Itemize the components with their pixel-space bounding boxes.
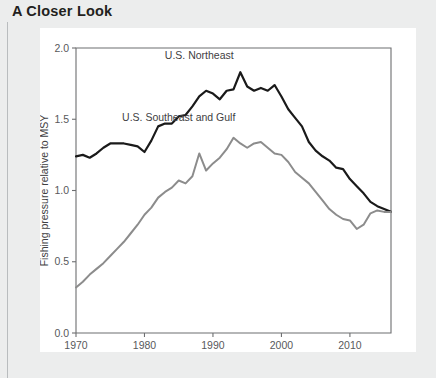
- chart-card: 0.00.51.01.52.019701980199020002010YearF…: [40, 28, 416, 352]
- page-root: A Closer Look 0.00.51.01.52.019701980199…: [0, 0, 436, 378]
- y-tick-label: 1.5: [54, 113, 69, 125]
- x-tick-label: 2000: [270, 339, 294, 351]
- x-tick-label: 1980: [133, 339, 157, 351]
- x-tick-label: 1990: [201, 339, 225, 351]
- y-tick-label: 2.0: [54, 42, 69, 54]
- page-title: A Closer Look: [12, 3, 112, 19]
- series-label: U.S. Southeast and Gulf: [122, 111, 235, 123]
- y-axis-title: Fishing pressure relative to MSY: [40, 115, 50, 267]
- y-tick-label: 0.5: [54, 255, 69, 267]
- plot-frame: [76, 48, 391, 333]
- y-tick-label: 1.0: [54, 184, 69, 196]
- left-edge-rule: [7, 22, 8, 378]
- x-tick-label: 2010: [338, 339, 362, 351]
- x-tick-label: 1970: [64, 339, 88, 351]
- y-tick-label: 0.0: [54, 327, 69, 339]
- series-line: [76, 138, 391, 288]
- line-chart: 0.00.51.01.52.019701980199020002010YearF…: [40, 28, 416, 352]
- series-line: [76, 72, 391, 212]
- series-label: U.S. Northeast: [165, 49, 234, 61]
